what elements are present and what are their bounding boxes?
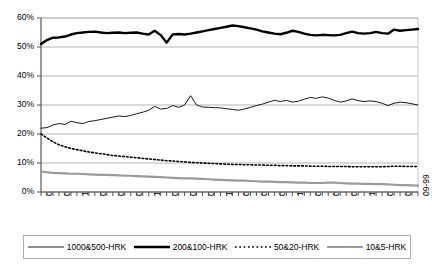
legend-item[interactable]: 1000&500-HRK bbox=[28, 242, 127, 252]
legend-label: 10&5-HRK bbox=[366, 242, 407, 252]
legend-item[interactable]: 50&20-HRK bbox=[235, 242, 319, 252]
legend-swatch-icon bbox=[235, 244, 271, 250]
plot-area bbox=[0, 0, 432, 269]
legend-swatch-icon bbox=[134, 244, 170, 250]
legend-label: 1000&500-HRK bbox=[67, 242, 127, 252]
legend-swatch-icon bbox=[28, 244, 64, 250]
legend-label: 200&100-HRK bbox=[173, 242, 228, 252]
legend-label: 50&20-HRK bbox=[274, 242, 319, 252]
legend-item[interactable]: 200&100-HRK bbox=[134, 242, 228, 252]
chart-legend: 1000&500-HRK200&100-HRK50&20-HRK10&5-HRK bbox=[23, 235, 411, 259]
legend-swatch-icon bbox=[327, 244, 363, 250]
legend-item[interactable]: 10&5-HRK bbox=[327, 242, 407, 252]
line-chart: 0%10%20%30%40%50%60% 06-9409-9412-9403-9… bbox=[0, 0, 432, 269]
